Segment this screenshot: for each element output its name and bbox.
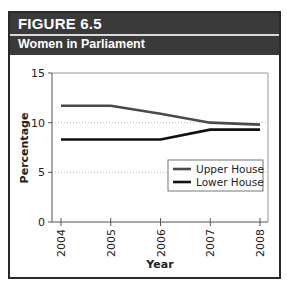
x-tick-label-2004: 2004 — [55, 229, 68, 257]
axes — [52, 73, 268, 222]
legend-label-lower-house: Lower House — [196, 176, 264, 188]
x-tick-label-2007: 2007 — [204, 229, 217, 257]
y-tick-label-10: 10 — [31, 117, 45, 130]
y-tick-label-15: 15 — [31, 67, 45, 80]
y-axis-title: Percentage — [18, 113, 31, 184]
y-tick-label-0: 0 — [38, 216, 45, 229]
x-ticks: 20042005200620072008 — [55, 218, 267, 257]
x-tick-label-2005: 2005 — [105, 229, 118, 257]
series-line-lower-house — [61, 130, 260, 140]
x-tick-label-2006: 2006 — [155, 229, 168, 257]
legend: Upper HouseLower House — [168, 160, 264, 191]
x-tick-label-2008: 2008 — [254, 229, 267, 257]
series-line-upper-house — [61, 106, 260, 125]
y-ticks: 051015 — [31, 67, 52, 229]
legend-label-upper-house: Upper House — [196, 163, 264, 175]
y-tick-label-5: 5 — [38, 166, 45, 179]
line-chart: 051015 20042005200620072008 Percentage Y… — [0, 0, 287, 289]
x-axis-title: Year — [145, 258, 174, 271]
